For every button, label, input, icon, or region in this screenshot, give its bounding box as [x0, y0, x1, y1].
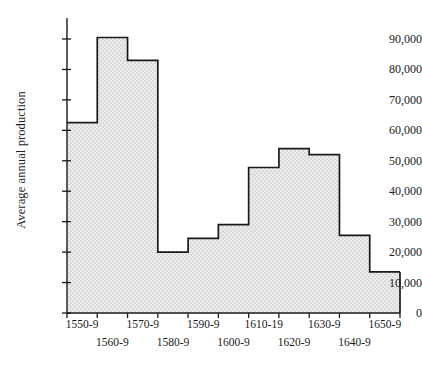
y-tick-label-30,000: 30,000	[365, 216, 422, 228]
bar-1580-9	[158, 252, 188, 313]
bar-1550-9	[67, 123, 97, 313]
y-tick-label-10,000: 10,000	[365, 277, 422, 289]
x-tick-label-1620-9: 1620-9	[266, 336, 322, 348]
x-tick-label-1630-9: 1630-9	[296, 318, 352, 330]
bar-1600-9	[218, 225, 248, 313]
x-tick-label-1610-19: 1610-19	[236, 318, 292, 330]
y-tick-label-80,000: 80,000	[365, 63, 422, 75]
histogram-plot	[0, 0, 422, 369]
chart-container: Average annual production 010,00020,0003…	[0, 0, 422, 369]
bar-1560-9	[97, 37, 127, 313]
y-tick-label-20,000: 20,000	[365, 246, 422, 258]
y-tick-label-40,000: 40,000	[365, 185, 422, 197]
bars-group	[67, 37, 400, 313]
y-tick-label-60,000: 60,000	[365, 124, 422, 136]
x-tick-label-1570-9: 1570-9	[115, 318, 171, 330]
x-tick-label-1640-9: 1640-9	[327, 336, 383, 348]
bar-1570-9	[128, 60, 158, 313]
bar-1630-9	[309, 155, 339, 313]
x-tick-label-1590-9: 1590-9	[175, 318, 231, 330]
bar-1610-19	[249, 167, 279, 313]
y-tick-label-70,000: 70,000	[365, 94, 422, 106]
bar-1620-9	[279, 149, 309, 313]
x-tick-label-1560-9: 1560-9	[84, 336, 140, 348]
y-tick-label-90,000: 90,000	[365, 33, 422, 45]
x-tick-label-1650-9: 1650-9	[357, 318, 413, 330]
x-tick-label-1580-9: 1580-9	[145, 336, 201, 348]
x-tick-label-1600-9: 1600-9	[206, 336, 262, 348]
bar-1590-9	[188, 238, 218, 313]
x-tick-label-1550-9: 1550-9	[54, 318, 110, 330]
y-tick-label-50,000: 50,000	[365, 155, 422, 167]
